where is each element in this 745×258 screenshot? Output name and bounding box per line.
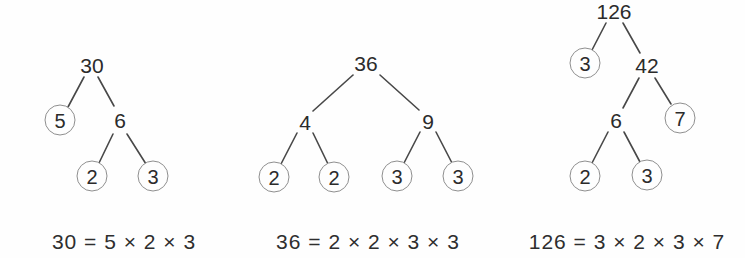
edge-4-2b <box>313 133 328 164</box>
edge-30-6 <box>98 77 114 106</box>
edge-36-4 <box>313 75 353 111</box>
edge-6b-3 <box>624 132 640 162</box>
edge-42-6 <box>623 78 639 108</box>
edge-6-2 <box>99 134 113 163</box>
edge-126-3 <box>592 23 606 50</box>
edge-42-7 <box>655 78 671 104</box>
tree-edges-layer <box>0 0 745 258</box>
edge-9-3a <box>404 132 420 163</box>
edge-9-3b <box>436 132 452 163</box>
edge-126-42 <box>623 23 640 53</box>
factor-trees-figure: 30 5 6 2 3 30 = 5 × 2 × 3 36 4 9 2 2 3 3… <box>0 0 745 258</box>
edge-6-3 <box>127 134 146 164</box>
edge-4-2a <box>281 133 297 164</box>
edge-36-9 <box>380 75 419 110</box>
edge-30-5 <box>68 77 84 107</box>
edge-6b-2 <box>592 132 608 163</box>
